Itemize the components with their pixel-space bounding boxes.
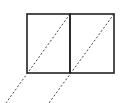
squares — [27, 14, 114, 73]
dashed-diagonal-1 — [6, 14, 70, 103]
dashed-lines — [6, 14, 114, 103]
dashed-diagonal-2 — [49, 14, 114, 103]
diagram-canvas — [0, 0, 124, 103]
